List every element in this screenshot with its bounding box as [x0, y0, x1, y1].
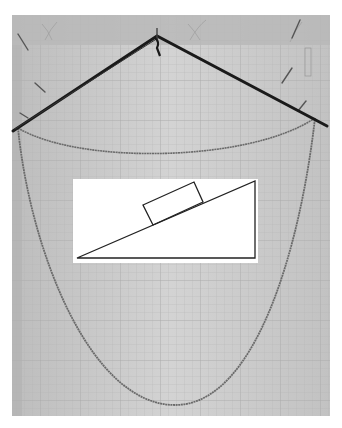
photo-scene: [0, 0, 342, 428]
inclined-plane-card: [73, 179, 258, 263]
